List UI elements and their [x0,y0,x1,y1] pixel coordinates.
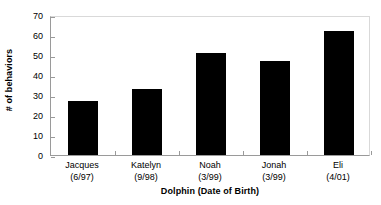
bar [68,101,97,155]
x-axis-tick-label-dob: (9/98) [114,171,178,183]
y-axis-tick-label: 60 [33,32,43,41]
x-axis-tick-label-name: Noah [178,159,242,171]
y-axis-tick-label: 10 [33,132,43,141]
x-axis-tick-label: Noah(3/99) [178,159,242,183]
bar-chart: # of behaviors 706050403020100 Jacques(6… [0,0,381,205]
x-axis-tick-label-name: Eli [306,159,370,171]
x-axis-tick-label-dob: (3/99) [242,171,306,183]
x-axis-tick-label: Katelyn(9/98) [114,159,178,183]
y-axis-tick-label: 30 [33,92,43,101]
x-axis-tick-label: Eli(4/01) [306,159,370,183]
x-axis-title: Dolphin (Date of Birth) [50,186,370,196]
bar [324,31,353,155]
x-axis-tick-label: Jonah(3/99) [242,159,306,183]
bar [260,61,289,155]
y-axis-title: # of behaviors [0,0,18,160]
y-axis-tick-mark [51,157,55,158]
x-axis-tick-label-name: Jacques [50,159,114,171]
bars-layer [51,17,369,155]
y-axis-tick-labels: 706050403020100 [18,10,46,160]
y-axis-tick-label: 20 [33,112,43,121]
x-axis-tick-labels: Jacques(6/97)Katelyn(9/98)Noah(3/99)Jona… [50,159,370,187]
y-axis-tick-label: 70 [33,12,43,21]
x-axis-tick-label-dob: (6/97) [50,171,114,183]
x-axis-tick-label-dob: (3/99) [178,171,242,183]
bar [132,89,161,155]
bar [196,53,225,155]
y-axis-title-text: # of behaviors [4,49,14,111]
y-axis-tick-label: 50 [33,52,43,61]
x-axis-tick-label-name: Katelyn [114,159,178,171]
x-axis-tick-label-dob: (4/01) [306,171,370,183]
y-axis-tick-label: 0 [38,152,43,161]
y-axis-tick-label: 40 [33,72,43,81]
x-axis-tick-mark [371,151,372,155]
x-axis-tick-label: Jacques(6/97) [50,159,114,183]
plot-area [50,16,370,156]
x-axis-tick-label-name: Jonah [242,159,306,171]
